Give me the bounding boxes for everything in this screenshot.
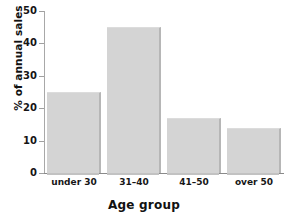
bar-chart: % of annual sales 01020304050 under 3031… xyxy=(0,0,288,224)
y-tick-mark xyxy=(39,43,44,44)
x-tick-label: under 30 xyxy=(51,178,96,187)
y-tick-mark xyxy=(39,141,44,142)
y-tick-label: 30 xyxy=(23,71,37,81)
y-tick: 40 xyxy=(44,43,45,44)
y-tick-label: 20 xyxy=(23,103,37,113)
y-tick-label: 50 xyxy=(23,6,37,16)
y-tick-label: 0 xyxy=(30,168,37,178)
y-tick-mark xyxy=(39,173,44,174)
y-tick-mark xyxy=(39,11,44,12)
y-tick-mark xyxy=(39,76,44,77)
x-axis-title: Age group xyxy=(0,198,288,212)
y-tick-label: 10 xyxy=(23,136,37,146)
bar xyxy=(167,118,221,173)
x-tick-label: 31–40 xyxy=(119,178,149,187)
y-axis-line xyxy=(44,11,45,173)
bar xyxy=(47,92,101,173)
x-tick-label: over 50 xyxy=(235,178,273,187)
y-tick: 50 xyxy=(44,11,45,12)
y-tick: 30 xyxy=(44,76,45,77)
y-tick-mark xyxy=(39,108,44,109)
y-tick-label: 40 xyxy=(23,38,37,48)
x-tick-label: 41–50 xyxy=(179,178,209,187)
plot-area: 01020304050 xyxy=(44,11,284,173)
y-tick: 20 xyxy=(44,108,45,109)
bar xyxy=(227,128,281,173)
bar xyxy=(107,27,161,173)
y-tick: 10 xyxy=(44,141,45,142)
y-tick: 0 xyxy=(44,173,45,174)
